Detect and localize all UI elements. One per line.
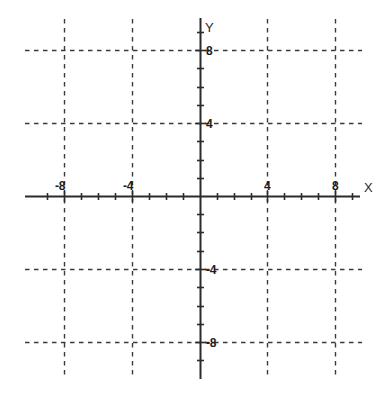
y-tick-label-pos8: 8 [206,45,212,57]
y-axis-label: Y [205,21,214,34]
y-tick-label-neg8: -8 [206,337,216,349]
x-tick-label-pos8: 8 [332,180,338,192]
grid-svg [0,0,390,398]
x-tick-label-neg4: -4 [123,180,133,192]
plot-background [0,0,390,398]
x-axis-label: X [364,181,373,194]
x-tick-label-neg8: -8 [55,180,65,192]
y-tick-label-neg4: -4 [206,264,216,276]
coordinate-plane: -8 -4 4 8 8 4 -4 -8 Y X [0,0,390,398]
x-tick-label-pos4: 4 [264,180,270,192]
y-tick-label-pos4: 4 [206,118,212,130]
